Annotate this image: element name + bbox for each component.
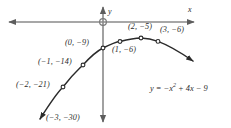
parabola-figure: x y (−3, −30) (−2, −21) (−1, −14) (0, −9… bbox=[0, 0, 231, 128]
data-point bbox=[139, 36, 143, 40]
y-axis-label: y bbox=[108, 8, 112, 16]
data-point bbox=[61, 85, 65, 89]
data-point bbox=[81, 63, 85, 67]
equation-label: y = −x2 + 4x − 9 bbox=[150, 85, 208, 93]
equation-term1: −x bbox=[164, 84, 173, 93]
plot-canvas bbox=[0, 0, 231, 128]
point-label-two: (2, −5) bbox=[128, 23, 152, 31]
point-label-neg3: (−3, −30) bbox=[46, 114, 80, 122]
equation-rest: + 4x − 9 bbox=[178, 84, 208, 93]
data-point bbox=[118, 40, 122, 44]
data-point bbox=[156, 40, 160, 44]
x-axis-label: x bbox=[188, 6, 192, 14]
point-label-neg2: (−2, −21) bbox=[16, 81, 50, 89]
data-point bbox=[101, 46, 105, 50]
point-label-one: (1, −6) bbox=[112, 46, 136, 54]
point-label-three: (3, −6) bbox=[160, 26, 184, 34]
point-label-neg1: (−1, −14) bbox=[38, 58, 72, 66]
point-label-zero: (0, −9) bbox=[65, 39, 89, 47]
